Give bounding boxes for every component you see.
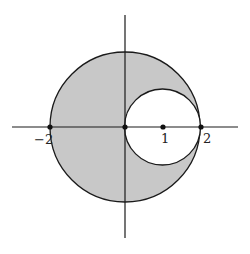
label-1: 1: [161, 131, 169, 146]
polar-region-diagram: −2 1 2: [0, 0, 250, 254]
point-origin: [122, 124, 127, 129]
point-2: [198, 124, 203, 129]
point-neg2: [47, 124, 52, 129]
label-2: 2: [203, 131, 211, 146]
point-1: [160, 124, 165, 129]
label-neg2: −2: [34, 132, 53, 147]
